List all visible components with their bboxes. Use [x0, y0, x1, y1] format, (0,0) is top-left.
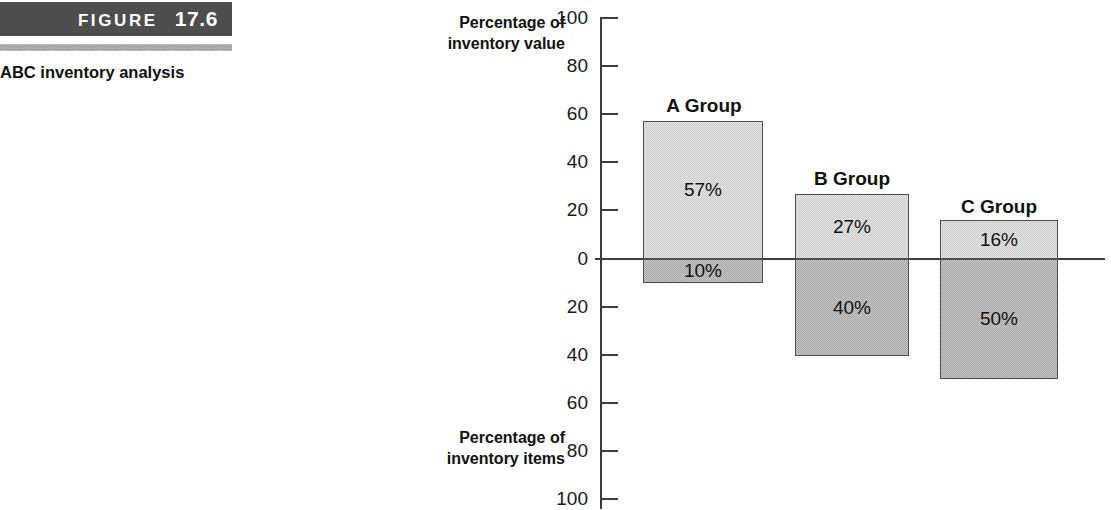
- y-tick-mark: [600, 161, 618, 163]
- y-tick-mark: [600, 113, 618, 115]
- abc-inventory-chart: Percentage of inventory value Percentage…: [0, 0, 1111, 510]
- bar-value-label: 16%: [980, 229, 1018, 251]
- y-tick-label: 80: [540, 56, 588, 75]
- y-tick-label: 0: [540, 249, 588, 268]
- y-tick-label: 60: [540, 393, 588, 412]
- y-tick-mark: [600, 65, 618, 67]
- y-tick-label: 20: [540, 297, 588, 316]
- y-tick-mark: [600, 17, 618, 19]
- y-tick-label: 20: [540, 200, 588, 219]
- y-tick-label: 60: [540, 104, 588, 123]
- y-axis-line: [600, 18, 602, 509]
- group-label: C Group: [940, 196, 1058, 218]
- bar-value-label: 40%: [833, 297, 871, 319]
- lower-axis-title: Percentage of inventory items: [385, 427, 565, 469]
- y-tick-mark: [600, 498, 618, 500]
- y-tick-mark: [600, 258, 618, 260]
- bar-value-label: 10%: [684, 260, 722, 282]
- bar-segment-value: 27%: [795, 194, 909, 259]
- bar-value-label: 27%: [833, 216, 871, 238]
- y-tick-mark: [600, 450, 618, 452]
- bar-segment-items: 50%: [940, 259, 1058, 379]
- y-tick-mark: [600, 306, 618, 308]
- y-tick-mark: [600, 209, 618, 211]
- bar-segment-items: 40%: [795, 259, 909, 356]
- y-tick-label: 100: [540, 8, 588, 27]
- y-tick-label: 100: [540, 489, 588, 508]
- bar-segment-items: 10%: [643, 259, 763, 283]
- bar-value-label: 50%: [980, 308, 1018, 330]
- group-label: B Group: [795, 168, 909, 190]
- y-tick-label: 40: [540, 345, 588, 364]
- figure-page: FIGURE 17.6 ABC inventory analysis Perce…: [0, 0, 1111, 510]
- group-label: A Group: [645, 95, 763, 117]
- y-tick-mark: [600, 354, 618, 356]
- bar-segment-value: 16%: [940, 220, 1058, 259]
- bar-segment-value: 57%: [643, 121, 763, 259]
- y-tick-label: 80: [540, 441, 588, 460]
- y-tick-label: 40: [540, 152, 588, 171]
- upper-axis-title: Percentage of inventory value: [385, 12, 565, 54]
- bar-value-label: 57%: [684, 179, 722, 201]
- y-tick-mark: [600, 402, 618, 404]
